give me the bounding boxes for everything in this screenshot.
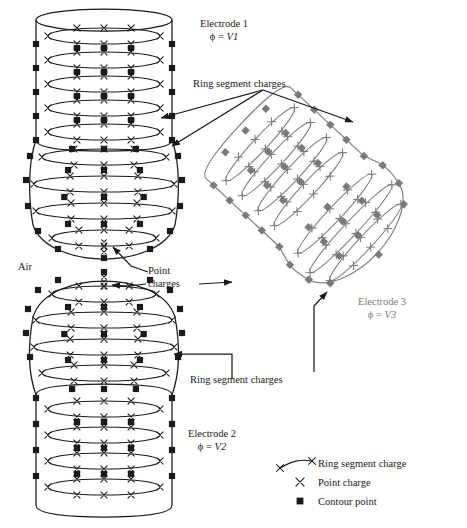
contour-point-mark [101,93,107,99]
contour-point-mark [101,69,107,75]
contour-point-mark [33,395,39,401]
ring-segment-charge [305,180,397,277]
point-charges-arrow-2 [199,282,232,284]
contour-point-mark [33,65,39,71]
contour-point-mark [169,473,175,479]
point-charge-mark [131,378,137,384]
contour-point-mark [101,45,107,51]
point-charge-mark [45,105,51,111]
contour-point-mark [221,148,229,156]
ring-segment-charges-top-arrow-2 [263,90,353,122]
point-charge-mark [67,336,73,342]
legend-point-charge-cross [296,478,304,486]
contour-point-mark [175,354,181,360]
point-charge-mark [254,207,262,215]
contour-point-mark [61,331,67,337]
point-charge-mark [157,432,163,438]
ring-segment-charge [325,200,406,286]
contour-point-mark [169,65,175,71]
point-charge-mark [49,235,55,241]
point-charge-mark [338,148,346,156]
point-charge-mark [126,227,132,233]
point-charge-mark [157,105,163,111]
point-charge-mark [126,243,132,249]
point-charge-mark [33,317,39,323]
contour-point-mark [169,421,175,427]
electrode-2-sphere-outline [30,281,179,395]
point-charge-mark [153,235,159,241]
ring-segment-charge [48,124,160,140]
point-charge-mark [45,57,51,63]
point-charge-mark [31,181,37,187]
point-charge-mark [157,57,163,63]
point-charge-mark [306,268,314,276]
point-charge-mark [102,240,106,244]
point-charge-mark [76,243,82,249]
point-charge-mark [134,200,140,206]
ring-segment-charge [48,479,160,495]
point-charge-mark [45,81,51,87]
point-charge-mark [45,33,51,39]
ring-segment-charge [48,76,160,92]
point-charge-mark [157,81,163,87]
ring-segment-charge [48,453,160,469]
electrode-3-potential: ϕ = V3 [358,309,406,322]
point-charge-mark [131,162,137,168]
contour-point-mark [374,250,382,258]
point-charge-mark [157,458,163,464]
contour-point-mark [305,275,313,283]
contour-point-mark [74,45,80,51]
electrode-1-shape [23,9,185,261]
electrode-1-label: Electrode 1 ϕ = V1 [200,18,248,43]
contour-point-mark [169,395,175,401]
contour-point-mark [33,113,39,119]
ring-segment-charges-bottom-label: Ring segment charges [190,374,283,387]
ring-segment-charge [48,52,160,68]
point-charge-mark [293,208,301,216]
point-charge-mark [163,154,169,160]
contour-point-mark [33,89,39,95]
point-charge-mark [71,362,77,368]
contour-point-mark [175,153,181,159]
contour-point-mark [101,221,107,227]
contour-point-mark [395,179,403,187]
point-charge-mark [135,173,141,179]
ring-segment-charges-bottom-arrow-1 [314,292,327,372]
electrode-2-bottom-rim [36,505,172,517]
legend-item-0-label: Ring segment charge [318,458,406,471]
point-charge-mark [49,291,55,297]
contour-point-mark [23,177,29,183]
contour-point-mark [179,330,185,336]
point-charge-mark [306,118,314,126]
contour-point-mark [137,221,143,227]
point-charge-mark [128,398,134,404]
contour-point-mark [147,246,153,252]
point-charge-mark [39,370,45,376]
contour-point-mark [69,386,75,392]
contour-point-mark [169,137,175,143]
point-charge-mark [153,291,159,297]
ring-segment-charge [52,286,156,302]
point-charge-mark [157,406,163,412]
point-charge-mark [45,406,51,412]
point-charge-mark [135,336,141,342]
point-charge-mark [157,33,163,39]
point-charge-mark [222,177,230,185]
electrode-1-name: Electrode 1 [200,18,248,31]
point-charge-mark [45,484,51,490]
point-charge-mark [294,249,302,257]
contour-point-mark [177,306,183,312]
contour-point-mark [101,357,107,363]
legend-contour-point-square [297,498,304,505]
contour-point-mark [25,203,31,209]
contour-point-mark [169,41,175,47]
contour-point-mark [128,69,134,75]
contour-point-mark [179,177,185,183]
electrode-3-left-wall [206,179,279,247]
point-charge-mark [39,154,45,160]
point-charge-mark [163,370,169,376]
point-charge-mark [76,299,82,305]
contour-point-mark [281,129,289,137]
contour-point-mark [101,471,107,477]
electrode-3-shape [191,73,429,308]
